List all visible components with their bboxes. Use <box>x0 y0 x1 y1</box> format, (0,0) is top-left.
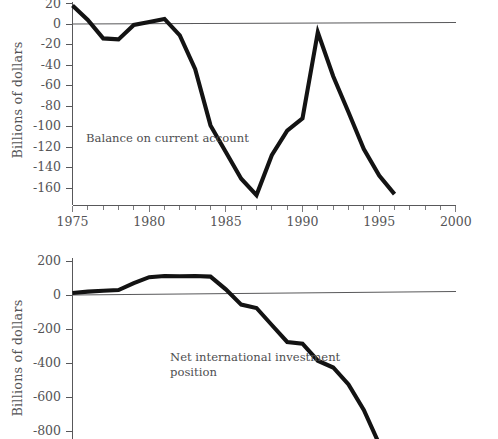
x-tick-label: 1985 <box>210 214 242 229</box>
x-tick-label: 1990 <box>287 214 319 229</box>
x-tick-label: 2000 <box>440 214 472 229</box>
y-tick-label: -140 <box>33 159 61 174</box>
y-ticks-bottom <box>66 261 73 431</box>
chart-panel-net-investment-position: Billions of dollars 200 0 -200 -400 <box>0 240 498 439</box>
series-annotation-current-account: Balance on current account <box>86 131 249 145</box>
figure-container: Billions of dollars <box>0 0 498 439</box>
x-minor-ticks-top <box>73 206 456 213</box>
y-tick-label: 200 <box>37 253 61 268</box>
chart-svg-top: Billions of dollars <box>0 0 498 240</box>
y-tick-label: -40 <box>41 57 61 72</box>
chart-svg-bottom: Billions of dollars 200 0 -200 -400 <box>0 240 498 439</box>
x-tick-labels-top: 1975 1980 1985 1990 1995 2000 <box>57 214 472 229</box>
y-tick-labels-bottom: 200 0 -200 -400 -600 -800 <box>33 253 61 438</box>
y-tick-label: -60 <box>41 77 61 92</box>
y-tick-label: -400 <box>33 355 61 370</box>
y-tick-label: -200 <box>33 321 61 336</box>
y-tick-label: -100 <box>33 118 61 133</box>
y-tick-label: -160 <box>33 180 61 195</box>
series-annotation-net-investment-line1: Net international investment <box>170 350 341 364</box>
y-tick-label: -20 <box>41 36 61 51</box>
zero-reference-line-top <box>73 23 457 25</box>
zero-reference-line-bottom <box>73 292 457 296</box>
y-ticks-top <box>66 4 73 189</box>
x-tick-label: 1975 <box>57 214 89 229</box>
y-tick-label: -80 <box>41 98 61 113</box>
y-tick-label: 0 <box>53 16 61 31</box>
x-tick-label: 1980 <box>133 214 165 229</box>
y-tick-label: -120 <box>33 139 61 154</box>
y-tick-label: 0 <box>53 287 61 302</box>
y-tick-label: 20 <box>45 0 61 11</box>
y-axis-title-bottom: Billions of dollars <box>10 299 25 416</box>
series-annotation-net-investment-line2: position <box>170 365 217 379</box>
y-tick-labels-top: 20 0 -20 -40 -60 -80 -100 -120 -140 -160 <box>33 0 61 195</box>
y-axis-title-top: Billions of dollars <box>10 41 25 158</box>
y-tick-label: -600 <box>33 389 61 404</box>
y-tick-label: -800 <box>33 423 61 438</box>
data-line-current-account <box>73 6 395 196</box>
chart-panel-current-account: Billions of dollars <box>0 0 498 240</box>
x-tick-label: 1995 <box>363 214 395 229</box>
